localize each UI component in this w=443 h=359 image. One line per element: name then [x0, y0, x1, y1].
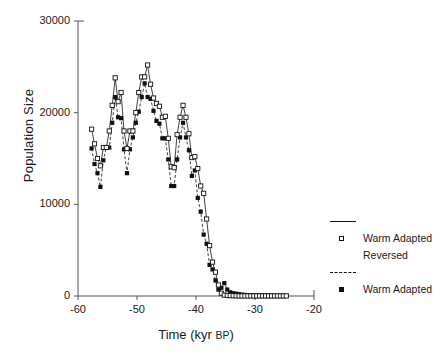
data-point [143, 81, 147, 85]
legend-line-sample-solid [330, 214, 443, 231]
legend-entry-warm-adapted: Warm Adapted [330, 282, 443, 299]
data-point [222, 281, 226, 285]
data-point [196, 196, 200, 200]
solid-line-icon [330, 221, 356, 222]
x-axis-label-smallcaps: BP [215, 329, 229, 341]
y-tick-label: 20000 [10, 106, 70, 118]
data-point [89, 127, 93, 131]
data-point [143, 75, 147, 79]
data-point [146, 63, 150, 67]
x-tick-label: -40 [176, 303, 216, 315]
legend-line-sample-dashed [330, 265, 443, 282]
data-point [196, 166, 200, 170]
data-point [175, 133, 179, 137]
data-point [187, 132, 191, 136]
legend-entry-warm-adapted-reversed-line2: Reversed [330, 248, 443, 265]
data-point [193, 155, 197, 159]
data-point [190, 174, 194, 178]
open-square-icon [330, 231, 356, 247]
y-axis-label: Population Size [21, 61, 36, 211]
data-point [116, 100, 120, 104]
series-2 [89, 81, 288, 298]
x-axis-label: Time (kyr BP) [78, 327, 314, 342]
data-point [137, 90, 141, 94]
data-point [125, 171, 129, 175]
data-point [148, 82, 152, 86]
x-tick-label: -50 [117, 303, 157, 315]
data-point [181, 103, 185, 107]
data-point [181, 121, 185, 125]
data-point [113, 95, 117, 99]
data-point [95, 171, 99, 175]
axis-ticks [74, 21, 314, 300]
data-point [172, 166, 176, 170]
filled-square-icon [330, 282, 356, 298]
legend-label-2-line1: Warm Adapted [363, 283, 432, 295]
x-tick-label: -30 [235, 303, 275, 315]
x-axis-label-tail: ) [229, 327, 233, 342]
data-point [131, 129, 135, 133]
x-tick-label: -20 [294, 303, 334, 315]
data-point [166, 157, 170, 161]
data-point [125, 146, 129, 150]
series-1 [89, 63, 288, 298]
data-point [178, 115, 182, 119]
data-point [134, 111, 138, 115]
data-point [107, 129, 111, 133]
data-point [140, 95, 144, 99]
y-tick-label: 10000 [10, 197, 70, 209]
data-point [284, 294, 288, 298]
legend-label-1-line1: Warm Adapted [363, 232, 432, 244]
data-point [89, 146, 93, 150]
dashed-line-icon [330, 272, 356, 273]
data-point [172, 184, 176, 188]
figure-chart: Population Size Time (kyr BP) 0100002000… [0, 0, 443, 359]
data-point [184, 115, 188, 119]
x-axis-label-main: Time (kyr [158, 327, 215, 342]
data-point [210, 260, 214, 264]
data-point [110, 103, 114, 107]
data-point [98, 185, 102, 189]
data-point [122, 129, 126, 133]
data-point [166, 136, 170, 140]
data-point [151, 109, 155, 113]
data-point [113, 76, 117, 80]
legend: Warm Adapted Reversed Warm Adapted [330, 214, 443, 299]
data-point [199, 210, 203, 214]
data-point [92, 142, 96, 146]
data-point [213, 270, 217, 274]
legend-label-1-line2: Reversed [363, 249, 408, 261]
data-point [207, 243, 211, 247]
data-point [95, 156, 99, 160]
data-point [202, 232, 206, 236]
data-point [163, 114, 167, 118]
data-point [119, 90, 123, 94]
data-point [175, 157, 179, 161]
data-point [202, 191, 206, 195]
data-point [205, 217, 209, 221]
data-point [216, 283, 220, 287]
data-point [131, 135, 135, 139]
data-point [199, 184, 203, 188]
y-tick-label: 0 [10, 289, 70, 301]
legend-entry-warm-adapted-reversed: Warm Adapted [330, 231, 443, 248]
data-point [92, 162, 96, 166]
x-tick-label: -60 [58, 303, 98, 315]
data-point [98, 164, 102, 168]
data-point [151, 96, 155, 100]
data-point [157, 122, 161, 126]
y-tick-label: 30000 [10, 14, 70, 26]
data-point [104, 145, 108, 149]
data-point [157, 104, 161, 108]
